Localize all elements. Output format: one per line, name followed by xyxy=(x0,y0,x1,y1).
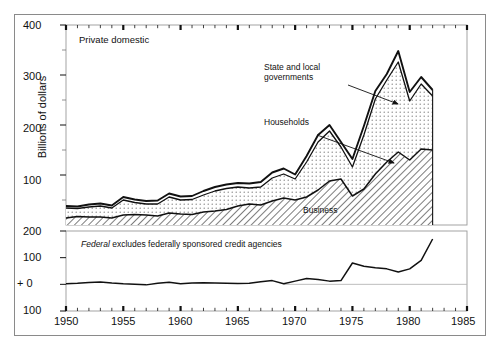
annotation-households: Households xyxy=(264,117,309,127)
xtick-1965: 1965 xyxy=(225,315,249,327)
ytick-lower-neg100: 100 xyxy=(23,304,41,316)
xtick-1975: 1975 xyxy=(339,315,363,327)
annotation-state-local-line1: State and local xyxy=(264,62,320,72)
panel-label-federal-italic: Federal xyxy=(81,239,110,249)
ytick-100: 100 xyxy=(23,174,41,186)
annotation-business: Business xyxy=(303,205,338,215)
figure-frame: Billions of dollars xyxy=(14,14,486,336)
panel-label-private-domestic: Private domestic xyxy=(79,34,149,45)
upper-y-ticks xyxy=(60,25,66,200)
lower-y-ticks xyxy=(60,231,66,311)
ytick-lower-100: 100 xyxy=(23,251,41,263)
chart-figure: Billions of dollars xyxy=(0,0,502,353)
xtick-1955: 1955 xyxy=(111,315,135,327)
annotation-state-local-line2: governments xyxy=(264,72,313,82)
xtick-1980: 1980 xyxy=(396,315,420,327)
ytick-400: 400 xyxy=(23,19,41,31)
panel-label-federal-rest: excludes federally sponsored credit agen… xyxy=(110,239,282,249)
xtick-1960: 1960 xyxy=(168,315,192,327)
ytick-lower-200: 200 xyxy=(23,225,41,237)
ytick-300: 300 xyxy=(23,70,41,82)
xtick-1970: 1970 xyxy=(282,315,306,327)
ytick-lower-zero: + 0 xyxy=(17,277,33,289)
chart-canvas xyxy=(15,15,487,337)
xtick-1985: 1985 xyxy=(451,315,475,327)
panel-label-federal: Federal excludes federally sponsored cre… xyxy=(81,239,282,249)
ytick-200: 200 xyxy=(23,122,41,134)
xtick-1950: 1950 xyxy=(54,315,78,327)
